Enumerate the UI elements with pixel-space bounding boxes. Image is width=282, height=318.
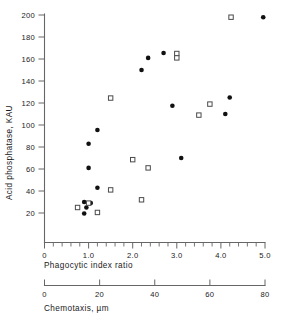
- y-tick-label: 60: [26, 165, 35, 174]
- secondary-x-axis-title: Chemotaxis, µm: [44, 304, 109, 313]
- secondary-x-tick-label: 0: [42, 290, 47, 299]
- y-tick-label: 20: [26, 209, 35, 218]
- y-tick-label: 120: [21, 99, 35, 108]
- y-tick-label: 80: [26, 143, 35, 152]
- data-markers: [75, 15, 265, 216]
- secondary-x-tick-label: 40: [150, 290, 159, 299]
- y-axis-title: Acid phosphatase, KAU: [5, 105, 14, 200]
- data-point-filled-circle: [227, 95, 232, 100]
- secondary-x-axis-ticks: [45, 280, 266, 286]
- x-tick-label: 0: [42, 251, 47, 260]
- x-axis-ticks: [45, 243, 266, 249]
- data-point-filled-circle: [82, 211, 87, 216]
- secondary-x-tick-label: 80: [260, 290, 269, 299]
- y-tick-label: 160: [21, 55, 35, 64]
- y-axis-ticks: [39, 15, 45, 213]
- x-tick-label: 3.0: [171, 251, 182, 260]
- y-tick-label: 40: [26, 187, 35, 196]
- data-point-open-square: [175, 51, 179, 55]
- data-point-open-square: [86, 201, 90, 205]
- data-point-open-square: [108, 188, 112, 192]
- data-point-open-square: [131, 157, 135, 161]
- x-tick-label: 1.0: [83, 251, 94, 260]
- data-point-open-square: [208, 102, 212, 106]
- y-tick-label: 200: [21, 11, 35, 20]
- data-point-open-square: [75, 205, 79, 209]
- scatter-plot-figure: 20406080100120140160180200 Acid phosphat…: [0, 0, 282, 318]
- secondary-x-axis-tick-labels: 020406080: [42, 290, 269, 299]
- data-point-open-square: [229, 15, 233, 19]
- data-point-filled-circle: [82, 200, 87, 205]
- data-point-filled-circle: [261, 15, 266, 20]
- x-axis-minor-ticks: [53, 243, 256, 247]
- x-tick-label: 5.0: [259, 251, 270, 260]
- data-point-filled-circle: [86, 141, 91, 146]
- y-tick-label: 140: [21, 77, 35, 86]
- x-axis-secondary: 020406080 Chemotaxis, µm: [42, 280, 269, 314]
- data-point-open-square: [146, 166, 150, 170]
- x-axis-title: Phagocytic index ratio: [44, 261, 133, 270]
- x-tick-label: 2.0: [127, 251, 138, 260]
- y-tick-label: 180: [21, 33, 35, 42]
- data-point-filled-circle: [146, 56, 151, 61]
- data-point-filled-circle: [86, 166, 91, 171]
- y-axis-tick-labels: 20406080100120140160180200: [21, 11, 35, 218]
- secondary-x-tick-label: 60: [205, 290, 214, 299]
- data-point-filled-circle: [95, 185, 100, 190]
- data-point-open-square: [139, 198, 143, 202]
- data-point-filled-circle: [139, 68, 144, 73]
- data-point-filled-circle: [170, 103, 175, 108]
- x-tick-label: 4.0: [215, 251, 226, 260]
- y-tick-label: 100: [21, 121, 35, 130]
- data-point-open-square: [108, 96, 112, 100]
- x-axis-primary: 01.02.03.04.05.0 Phagocytic index ratio: [42, 243, 271, 271]
- data-point-filled-circle: [95, 128, 100, 133]
- data-point-open-square: [197, 113, 201, 117]
- chart-canvas: 20406080100120140160180200 Acid phosphat…: [0, 0, 282, 318]
- data-point-filled-circle: [179, 156, 184, 161]
- data-point-filled-circle: [223, 112, 228, 117]
- secondary-x-tick-label: 20: [95, 290, 104, 299]
- data-point-open-square: [175, 56, 179, 60]
- x-axis-tick-labels: 01.02.03.04.05.0: [42, 251, 271, 260]
- y-axis: 20406080100120140160180200 Acid phosphat…: [5, 11, 45, 243]
- data-point-open-square: [95, 210, 99, 214]
- data-point-filled-circle: [161, 51, 166, 56]
- data-point-filled-circle: [84, 205, 89, 210]
